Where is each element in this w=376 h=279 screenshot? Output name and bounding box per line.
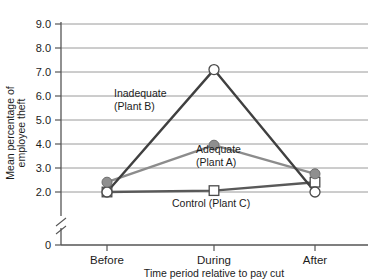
y-tick-label: 4.0: [36, 138, 51, 150]
annotation-inadequate-line1: Inadequate: [114, 87, 167, 99]
line-chart: 9.0 8.0 7.0 6.0 5.0 4.0 3.0 2.0 0 Before…: [0, 0, 376, 279]
markers-inadequate: [102, 65, 320, 197]
y-axis: [56, 22, 66, 245]
x-tick-label-after: After: [303, 254, 327, 266]
annotation-control-line1: Control (Plant C): [172, 197, 250, 209]
annotation-adequate-line2: (Plant A): [196, 156, 236, 168]
y-tick-label: 8.0: [36, 42, 51, 54]
y-tick-label: 5.0: [36, 114, 51, 126]
marker-open-circle: [102, 187, 112, 197]
y-tick-label: 9.0: [36, 18, 51, 30]
annotation-adequate: Adequate (Plant A): [196, 143, 241, 168]
y-tick-label: 2.0: [36, 186, 51, 198]
marker-filled-circle: [310, 169, 320, 179]
y-tick-label: 3.0: [36, 162, 51, 174]
y-tick-label: 7.0: [36, 66, 51, 78]
x-tick-marks: [107, 245, 315, 251]
x-tick-labels: Before During After: [90, 254, 327, 266]
y-tick-marks: [55, 24, 61, 245]
annotation-control: Control (Plant C): [172, 197, 250, 209]
y-tick-label: 6.0: [36, 90, 51, 102]
annotation-adequate-line1: Adequate: [196, 143, 241, 155]
markers-control: [102, 177, 320, 196]
marker-open-circle: [209, 65, 219, 75]
annotation-inadequate: Inadequate (Plant B): [114, 87, 167, 112]
y-axis-title: Mean percentage of employee theft: [4, 86, 27, 179]
x-tick-label-before: Before: [90, 254, 124, 266]
figure-container: 9.0 8.0 7.0 6.0 5.0 4.0 3.0 2.0 0 Before…: [0, 0, 376, 279]
y-axis-title-line2: employee theft: [15, 98, 27, 167]
marker-open-circle: [310, 187, 320, 197]
x-tick-label-during: During: [197, 254, 231, 266]
y-tick-label: 0: [45, 239, 51, 251]
y-tick-labels: 9.0 8.0 7.0 6.0 5.0 4.0 3.0 2.0 0: [36, 18, 51, 251]
marker-open-square: [209, 186, 219, 196]
marker-filled-circle: [102, 177, 112, 187]
x-axis-title: Time period relative to pay cut: [144, 267, 284, 279]
annotation-inadequate-line2: (Plant B): [114, 100, 155, 112]
